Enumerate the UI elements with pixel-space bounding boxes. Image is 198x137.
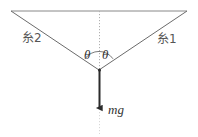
vertex-point [98,69,101,72]
physics-diagram: 糸2 糸1 θ θ mg [0,0,198,137]
label-angle-left: θ [84,48,90,61]
label-string-1: 糸1 [157,33,177,45]
label-angle-right: θ [102,48,108,61]
diagram-canvas [0,0,198,137]
label-string-2: 糸2 [22,32,42,44]
label-force-mg: mg [108,103,124,116]
